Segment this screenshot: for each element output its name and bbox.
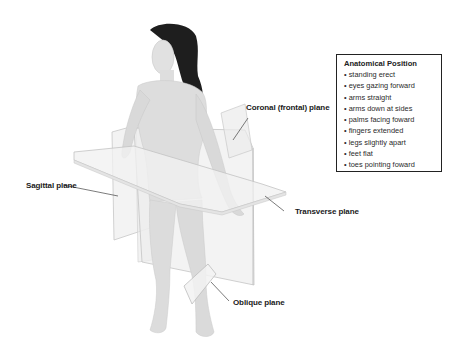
list-item: fingers extended [342,125,441,136]
sagittal-plane-label: Sagittal plane [26,181,77,190]
oblique-leader-line [211,282,229,301]
anatomical-position-list: standing erect eyes gazing forward arms … [342,69,441,171]
list-item: eyes gazing forward [342,80,441,91]
list-item: standing erect [342,69,441,80]
anatomical-position-title: Anatomical Position [344,58,441,69]
list-item: feet flat [342,148,441,159]
list-item: palms facing foward [342,114,441,125]
anatomical-planes-diagram: Coronal (frontal) plane Sagittal plane T… [0,0,461,347]
list-item: legs slightly apart [342,137,441,148]
coronal-plane-label: Coronal (frontal) plane [246,103,329,112]
oblique-plane-label: Oblique plane [233,298,285,307]
list-item: arms straight [342,92,441,103]
body-planes-illustration [0,0,461,347]
list-item: arms down at sides [342,103,441,114]
anatomical-position-box: Anatomical Position standing erect eyes … [336,54,442,172]
list-item: toes pointing foward [342,159,441,170]
transverse-plane-label: Transverse plane [295,207,359,216]
